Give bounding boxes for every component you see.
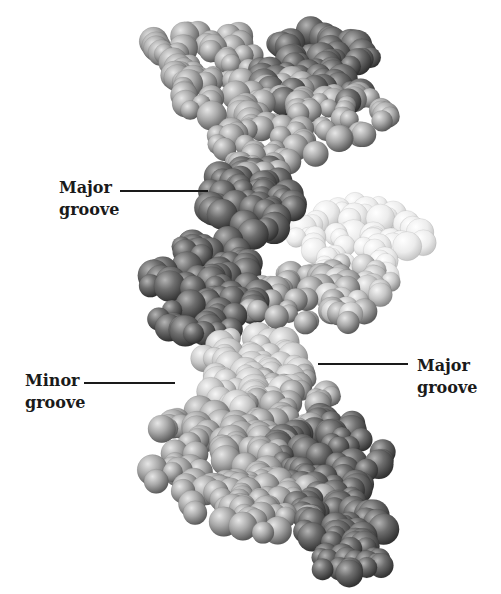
label-text-line2: groove: [59, 199, 119, 221]
label-text-line2: groove: [25, 392, 85, 414]
atom-sphere: [326, 125, 353, 152]
label-minor-groove: Minor groove: [25, 370, 85, 414]
leader-line-major-groove-lower: [318, 363, 408, 365]
atom-sphere: [303, 141, 329, 167]
label-text-line1: Major: [59, 177, 119, 199]
atom-sphere: [294, 311, 317, 334]
dna-helix-model: [0, 0, 501, 594]
label-major-groove-lower: Major groove: [417, 355, 477, 399]
atom-sphere: [337, 311, 360, 334]
atom-sphere: [265, 305, 289, 329]
atom-sphere: [183, 501, 207, 525]
atom-sphere: [183, 323, 204, 344]
atom-sphere: [252, 522, 274, 544]
label-major-groove-upper: Major groove: [59, 177, 119, 221]
label-text-line1: Minor: [25, 370, 85, 392]
leader-line-minor-groove: [84, 382, 175, 384]
label-text-line2: groove: [417, 377, 477, 399]
atom-sphere: [148, 415, 176, 443]
label-text-line1: Major: [417, 355, 477, 377]
atom-sphere: [144, 469, 168, 493]
atom-sphere: [335, 560, 363, 588]
atom-spheres: [137, 16, 436, 587]
atom-sphere: [352, 122, 377, 147]
leader-line-major-groove-upper: [120, 190, 208, 192]
atom-sphere: [312, 559, 334, 581]
